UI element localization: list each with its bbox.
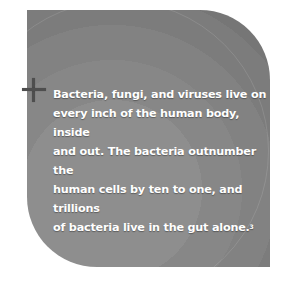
footnote-marker: 3 (250, 223, 254, 230)
callout-text: Bacteria, fungi, and viruses live on eve… (53, 85, 268, 237)
callout-line: every inch of the human body, inside (53, 104, 268, 142)
callout-line: and out. The bacteria outnumber the (53, 142, 268, 180)
callout-line: of bacteria live in the gut alone. (53, 221, 250, 234)
callout-line: human cells by ten to one, and trillions (53, 180, 268, 218)
callout-line: Bacteria, fungi, and viruses live on (53, 85, 268, 104)
plus-icon (22, 78, 46, 102)
callout-line-last: of bacteria live in the gut alone.3 (53, 218, 268, 237)
